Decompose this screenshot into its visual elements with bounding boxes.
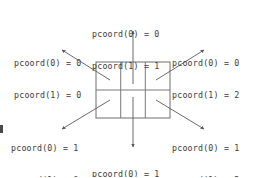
label-top-center: pcoord(0) = 0 pcoord(1) = 1: [92, 8, 160, 92]
diagram-canvas: pcoord(0) = 0 pcoord(1) = 1 pcoord(0) = …: [0, 0, 259, 177]
edge-crop-artifact: [0, 125, 3, 133]
label-top-left-line1: pcoord(0) = 0: [14, 58, 82, 69]
label-bottom-right-line2: pcoord(1) = 2: [172, 175, 240, 178]
label-bottom-right: pcoord(0) = 1 pcoord(1) = 2: [172, 122, 240, 177]
label-bottom-center-line1: pcoord(0) = 1: [92, 169, 160, 177]
label-bottom-left-line1: pcoord(0) = 1: [11, 143, 79, 154]
label-bottom-right-line1: pcoord(0) = 1: [172, 143, 240, 154]
label-bottom-left: pcoord(0) = 1 pcoord(1) = 0: [11, 122, 79, 177]
label-top-right-line2: pcoord(1) = 2: [172, 90, 240, 101]
label-top-center-line1: pcoord(0) = 0: [92, 29, 160, 40]
label-top-left: pcoord(0) = 0 pcoord(1) = 0: [14, 37, 82, 121]
label-top-right: pcoord(0) = 0 pcoord(1) = 2: [172, 37, 240, 121]
label-top-center-line2: pcoord(1) = 1: [92, 61, 160, 72]
label-bottom-center: pcoord(0) = 1 pcoord(1) = 1: [92, 148, 160, 177]
label-top-left-line2: pcoord(1) = 0: [14, 90, 82, 101]
label-top-right-line1: pcoord(0) = 0: [172, 58, 240, 69]
label-bottom-left-line2: pcoord(1) = 0: [11, 175, 79, 178]
